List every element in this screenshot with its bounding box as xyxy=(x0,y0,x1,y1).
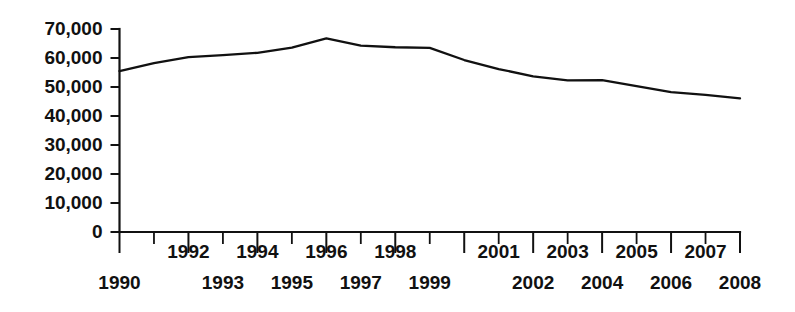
y-axis-tick-labels: 70,00060,00050,00040,00030,00020,00010,0… xyxy=(44,18,102,242)
x-axis-tick-label: 2002 xyxy=(512,272,554,293)
x-axis-tick-label: 1994 xyxy=(236,241,279,262)
x-axis-tick-label: 2001 xyxy=(478,241,521,262)
x-axis-tick-label: 2007 xyxy=(684,241,726,262)
data-series-group xyxy=(120,38,741,98)
x-axis-tick-label: 1992 xyxy=(167,241,209,262)
y-axis-tick-label: 60,000 xyxy=(44,47,102,68)
x-axis-tick-label: 2008 xyxy=(719,272,761,293)
x-axis-tick-label: 1995 xyxy=(271,272,314,293)
chart-canvas: 70,00060,00050,00040,00030,00020,00010,0… xyxy=(0,0,795,312)
x-axis-tick-labels: 1990199219931994199519961997199819992001… xyxy=(98,241,761,293)
y-axis-tick-label: 50,000 xyxy=(44,76,102,97)
y-axis-tick-label: 20,000 xyxy=(44,163,102,184)
x-axis-tick-label: 2004 xyxy=(581,272,624,293)
y-axis-tick-label: 0 xyxy=(92,221,103,242)
y-axis-tick-label: 30,000 xyxy=(44,134,102,155)
x-axis-tick-label: 1996 xyxy=(305,241,347,262)
x-axis-tick-label: 2005 xyxy=(615,241,658,262)
line-chart: 70,00060,00050,00040,00030,00020,00010,0… xyxy=(0,0,795,312)
x-axis-tick-label: 1993 xyxy=(202,272,244,293)
x-axis-tick-label: 1990 xyxy=(98,272,140,293)
y-axis-tick-label: 40,000 xyxy=(44,105,102,126)
x-axis-tick-label: 1999 xyxy=(409,272,451,293)
x-axis-tick-label: 2003 xyxy=(546,241,588,262)
data-line-series xyxy=(120,38,741,98)
y-axis xyxy=(111,29,120,232)
y-axis-tick-label: 70,000 xyxy=(44,18,102,39)
x-axis-tick-label: 1997 xyxy=(340,272,382,293)
x-axis-tick-label: 2006 xyxy=(650,272,692,293)
x-axis-tick-label: 1998 xyxy=(374,241,416,262)
y-axis-tick-label: 10,000 xyxy=(44,192,102,213)
